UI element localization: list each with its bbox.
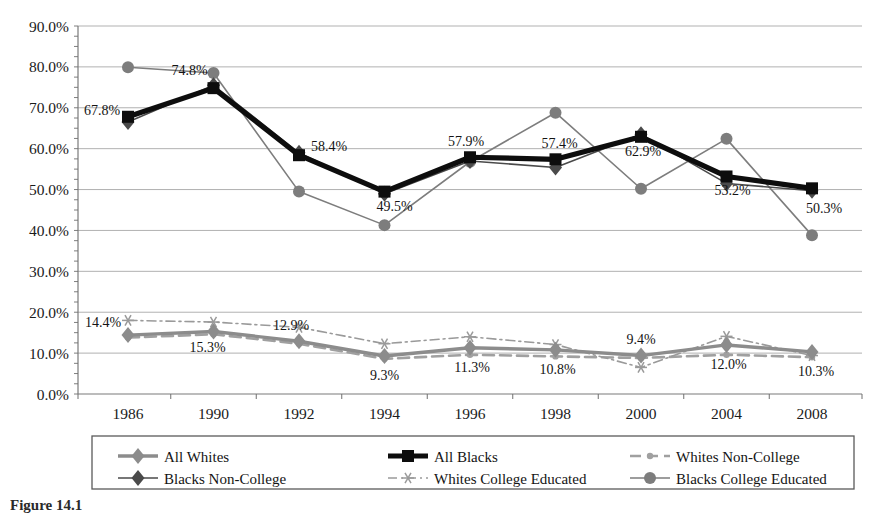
legend-item-label: Whites College Educated [434, 471, 587, 487]
data-point-marker [379, 339, 391, 349]
data-point-marker [379, 219, 391, 231]
x-axis-tick-label: 1986 [113, 405, 144, 422]
y-axis-tick-label: 0.0% [37, 386, 69, 403]
data-point-label: 57.9% [448, 134, 485, 149]
y-axis-tick-label: 70.0% [29, 99, 69, 116]
y-axis-tick-labels: 0.0%10.0%20.0%30.0%40.0%50.0%60.0%70.0%8… [29, 18, 69, 403]
data-point-marker [122, 327, 135, 343]
x-axis-tick-label: 1990 [198, 405, 229, 422]
data-point-label: 12.9% [273, 318, 310, 333]
y-axis-tick-label: 10.0% [29, 345, 69, 362]
legend-item-label: Blacks Non-College [164, 471, 286, 487]
data-point-label: 12.0% [710, 357, 747, 372]
x-axis-tick-label: 2000 [626, 405, 657, 422]
data-point-marker [721, 170, 733, 182]
data-point-marker [293, 149, 305, 161]
figure-caption-label: Figure 14.1 [10, 497, 82, 513]
data-point-marker [378, 348, 391, 364]
data-point-marker [635, 348, 648, 364]
data-point-marker [635, 131, 647, 143]
y-axis-tick-label: 60.0% [29, 140, 69, 157]
data-point-label: 49.5% [376, 199, 413, 214]
legend-item-label: Blacks College Educated [676, 471, 827, 487]
y-axis-tick-label: 30.0% [29, 263, 69, 280]
data-point-marker [635, 183, 647, 195]
y-axis-tick-label: 80.0% [29, 58, 69, 75]
x-axis-tick-label: 1992 [284, 405, 315, 422]
data-point-label: 9.3% [370, 368, 400, 383]
chart-legend: All WhitesAll BlacksWhites Non-CollegeBl… [92, 436, 854, 489]
legend-item-label: All Whites [164, 449, 229, 465]
line-chart: 0.0%10.0%20.0%30.0%40.0%50.0%60.0%70.0%8… [0, 0, 875, 515]
data-point-marker [208, 82, 220, 94]
data-point-marker [721, 133, 733, 145]
data-point-label: 10.8% [539, 362, 576, 377]
y-axis-tick-label: 50.0% [29, 181, 69, 198]
data-point-marker [293, 186, 305, 198]
legend-swatch-marker [402, 450, 414, 462]
figure-caption: Figure 14.1 [10, 497, 870, 514]
data-point-marker [207, 323, 220, 339]
data-point-marker [122, 315, 134, 325]
legend-swatch-marker [647, 453, 653, 459]
data-point-label: 62.9% [625, 144, 662, 159]
x-axis-tick-label: 2004 [711, 405, 742, 422]
data-point-label: 11.3% [454, 360, 490, 375]
data-point-label: 10.3% [798, 364, 835, 379]
data-point-label: 67.8% [84, 103, 121, 118]
data-point-marker [379, 186, 391, 198]
y-axis-tick-label: 90.0% [29, 18, 69, 35]
data-point-label: 53.2% [714, 183, 751, 198]
data-point-label: 58.4% [311, 139, 348, 154]
data-point-label: 14.4% [85, 315, 122, 330]
data-point-label: 50.3% [806, 201, 843, 216]
x-axis-tick-label: 1994 [369, 405, 400, 422]
data-point-marker [464, 151, 476, 163]
data-point-marker [635, 362, 647, 372]
y-axis-tick-label: 20.0% [29, 304, 69, 321]
data-point-marker [208, 67, 220, 79]
data-point-marker [720, 337, 733, 353]
data-point-marker [550, 153, 562, 165]
data-point-marker [806, 229, 818, 241]
x-axis-ticks [78, 394, 862, 399]
data-point-label: 9.4% [626, 332, 656, 347]
data-point-marker [122, 111, 134, 123]
x-axis-tick-label: 1996 [455, 405, 486, 422]
figure-root: 0.0%10.0%20.0%30.0%40.0%50.0%60.0%70.0%8… [0, 0, 875, 515]
legend-swatch-marker [644, 472, 656, 484]
x-axis-tick-label: 1998 [540, 405, 571, 422]
axes [78, 26, 862, 394]
data-point-label: 74.8% [171, 63, 208, 78]
data-point-marker [122, 61, 134, 73]
data-point-marker [550, 107, 562, 119]
legend-item-label: Whites Non-College [676, 449, 800, 465]
data-point-label: 15.3% [189, 340, 226, 355]
data-point-label: 57.4% [541, 136, 578, 151]
legend-item-label: All Blacks [434, 449, 498, 465]
x-axis-tick-label: 2008 [797, 405, 828, 422]
y-axis-tick-label: 40.0% [29, 222, 69, 239]
x-axis-tick-labels: 198619901992199419961998200020042008 [113, 405, 828, 422]
data-point-marker [293, 333, 306, 349]
data-point-marker [806, 182, 818, 194]
